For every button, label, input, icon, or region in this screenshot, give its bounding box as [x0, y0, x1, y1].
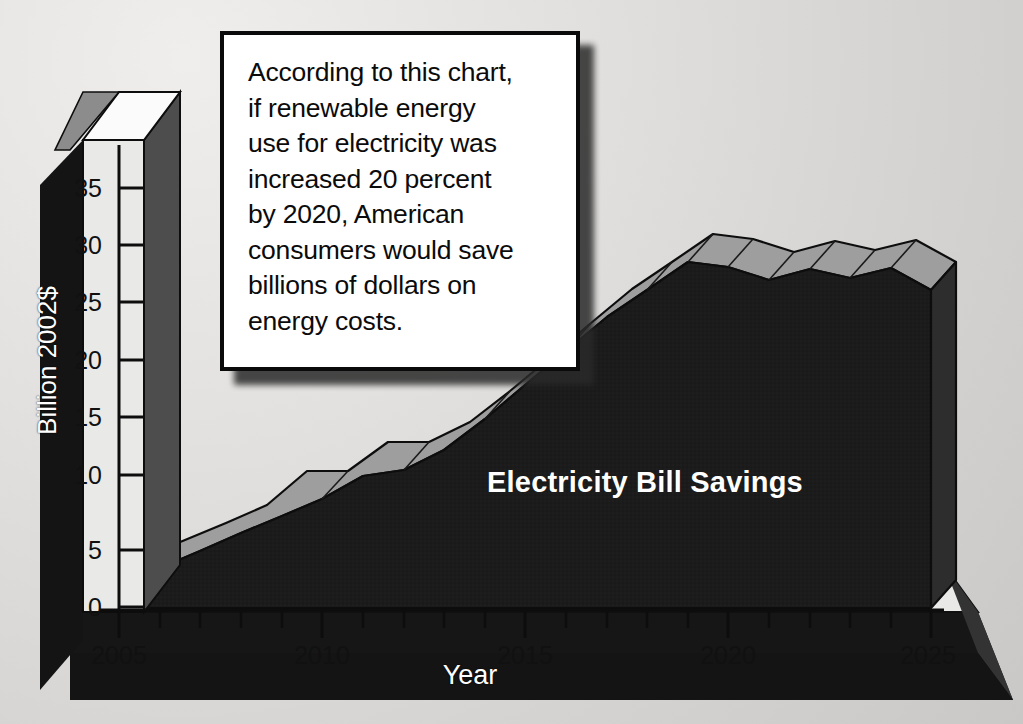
x-axis-title: Year: [0, 660, 940, 691]
y-tick-label-35: 35: [58, 174, 102, 203]
y-tick-label-10: 10: [58, 461, 102, 490]
y-tick-label-15: 15: [58, 403, 102, 432]
callout-text: According to this chart, if renewable en…: [248, 55, 562, 339]
y-tick-label-20: 20: [58, 346, 102, 375]
y-tick-label-30: 30: [58, 231, 102, 260]
y-axis-right-face: [144, 92, 180, 612]
series-label-electricity-bill-savings: Electricity Bill Savings: [487, 466, 803, 499]
y-tick-label-5: 5: [58, 536, 102, 565]
chart-figure: 35 30 25 20 15 10 5 0 2005 2010 2015 202…: [0, 0, 1023, 724]
y-axis-title: Billion 2002$: [32, 276, 63, 446]
y-tick-label-0: 0: [58, 593, 102, 622]
area-right-end-cap: [931, 262, 956, 608]
callout-box: According to this chart, if renewable en…: [220, 31, 580, 371]
y-tick-label-25: 25: [58, 288, 102, 317]
